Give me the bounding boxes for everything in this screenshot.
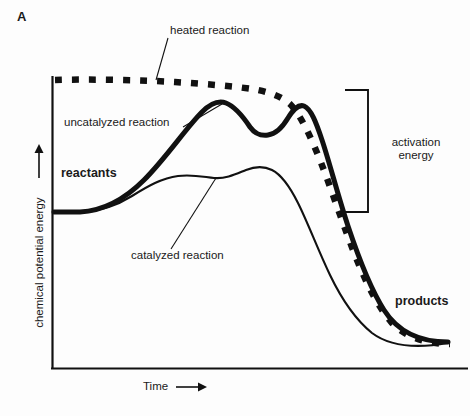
activation-energy-bracket — [345, 90, 368, 212]
annotation-uncatalyzed-reaction: uncatalyzed reaction — [64, 116, 169, 129]
panel-label: A — [17, 10, 26, 25]
annotation-reactants: reactants — [61, 166, 117, 180]
annotation-products: products — [395, 294, 448, 308]
annotation-heated-reaction: heated reaction — [170, 24, 249, 37]
energy-diagram-figure: A heated reaction uncatalyzed reaction c… — [0, 0, 470, 416]
leader-line-heated — [156, 38, 168, 80]
x-axis-label: Time — [143, 380, 168, 393]
annotation-activation-energy: activation energy — [378, 136, 454, 162]
leader-line-uncatalyzed — [183, 104, 222, 127]
y-axis-label: chemical potential energy — [33, 168, 46, 358]
annotation-catalyzed-reaction: catalyzed reaction — [131, 249, 224, 262]
leader-line-catalyzed — [171, 178, 216, 249]
right-arrow-icon — [176, 383, 207, 392]
energy-diagram-plot — [0, 0, 470, 416]
